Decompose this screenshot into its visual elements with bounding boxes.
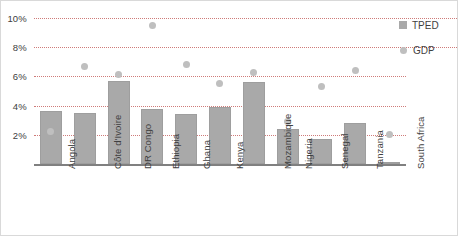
legend-label: GDP [413,45,435,56]
y-axis-tick-label: 6% [13,71,27,82]
y-axis-labels: 10% 8% 6% 4% 2% [1,1,31,236]
scatter-point[interactable] [250,69,257,76]
x-axis-tick-label: DR Congo [141,124,152,169]
x-axis-tick-label: Ghana [201,140,212,169]
x-axis-tick-label: Nigeria [303,138,314,169]
legend-item-tped[interactable]: TPED [399,19,451,31]
bar-group [34,1,68,164]
x-axis-tick-label: Côte d'Ivoire [112,115,123,169]
x-axis-tick-label: Kenya [234,142,245,169]
x-axis-tick-label: Senegal [339,133,350,169]
scatter-point[interactable] [149,22,156,29]
x-axis-tick: Angola [34,167,68,236]
chart-legend: TPED GDP [399,19,451,69]
scatter-point[interactable] [386,131,393,138]
x-axis-line [34,164,406,166]
scatter-point[interactable] [81,63,88,70]
scatter-point[interactable] [352,67,359,74]
chart-container: 10% 8% 6% 4% 2% AngolaCôte d'IvoireDR Co… [0,0,458,236]
x-axis-tick-label: Tanzania [375,130,386,169]
x-axis-tick-label: Angola [66,139,77,169]
y-axis-tick-label: 10% [7,13,27,24]
x-axis-tick-label: Mozambique [282,114,293,169]
x-axis-tick: Tanzania [338,167,372,236]
y-axis-tick-label: 2% [13,129,27,140]
x-axis-tick: Kenya [203,167,237,236]
bar[interactable] [40,111,62,164]
x-axis-tick-label: South Africa [415,117,426,169]
legend-item-gdp[interactable]: GDP [399,44,451,56]
scatter-point[interactable] [318,83,325,90]
x-axis-labels: AngolaCôte d'IvoireDR CongoEthiopiaGhana… [34,167,406,236]
plot-area [34,1,406,164]
circle-marker-icon [400,47,407,54]
y-axis-tick-label: 4% [13,100,27,111]
x-axis-tick: South Africa [372,167,406,236]
x-axis-tick: Ghana [169,167,203,236]
x-axis-tick: Ethiopia [135,167,169,236]
bar[interactable] [243,82,265,164]
x-axis-tick: Côte d'Ivoire [68,167,102,236]
x-axis-tick: DR Congo [102,167,136,236]
x-axis-tick-label: Ethiopia [170,134,181,169]
scatter-point[interactable] [115,71,122,78]
bar[interactable] [209,107,231,164]
bar-group [237,1,271,164]
scatter-point[interactable] [216,80,223,87]
x-axis-tick: Senegal [305,167,339,236]
x-axis-tick: Nigeria [271,167,305,236]
x-axis-tick: Mozambique [237,167,271,236]
legend-label: TPED [412,20,439,31]
scatter-point[interactable] [183,61,190,68]
y-axis-tick-label: 8% [13,42,27,53]
square-marker-icon [399,21,407,29]
